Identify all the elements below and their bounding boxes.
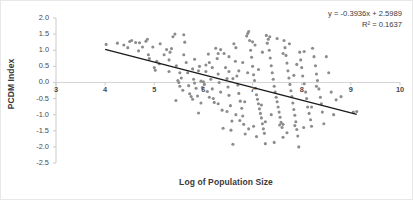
data-point (207, 53, 210, 56)
data-point-group (105, 30, 359, 148)
data-point (241, 61, 244, 64)
data-point (294, 120, 297, 123)
data-point (159, 42, 162, 45)
data-point (192, 78, 195, 81)
data-point (227, 94, 230, 97)
data-point (239, 100, 242, 103)
data-point (258, 107, 261, 110)
data-point (209, 78, 212, 81)
data-point (287, 76, 290, 79)
data-point (272, 78, 275, 81)
data-point (216, 57, 219, 60)
data-point (231, 77, 234, 80)
data-point (292, 108, 295, 111)
data-point (259, 112, 262, 115)
data-point (270, 113, 273, 116)
data-point (208, 96, 211, 99)
data-point (175, 64, 178, 67)
data-point (148, 57, 151, 60)
data-point (219, 48, 222, 51)
data-point (180, 76, 183, 79)
data-point (204, 63, 207, 66)
data-point (310, 105, 313, 108)
data-point (261, 122, 264, 125)
data-point (167, 70, 170, 73)
data-point (178, 71, 181, 74)
data-point (308, 112, 311, 115)
y-tick-label: -2.0 (23, 142, 49, 151)
data-point (253, 44, 256, 47)
data-point (199, 102, 202, 105)
data-point (232, 42, 235, 45)
data-point (292, 74, 295, 77)
data-point (273, 85, 276, 88)
data-point (196, 94, 199, 97)
data-point (171, 35, 174, 38)
data-point (312, 55, 315, 58)
data-point (288, 42, 291, 45)
data-point (231, 143, 234, 146)
data-point (222, 127, 225, 130)
data-point (193, 82, 196, 85)
data-point (260, 116, 263, 119)
data-point (281, 126, 284, 129)
data-point (257, 102, 260, 105)
data-point (277, 105, 280, 108)
data-point (279, 116, 282, 119)
data-point (122, 44, 125, 47)
x-axis-title: Log of Population Size (56, 177, 396, 187)
data-point (317, 87, 320, 90)
data-point (211, 66, 214, 69)
data-point (301, 74, 304, 77)
data-point (181, 89, 184, 92)
regression-equation: y = -0.3936x + 2.5989 (328, 8, 402, 19)
data-point (177, 81, 180, 84)
data-point (229, 129, 232, 132)
data-point (237, 92, 240, 95)
data-point (252, 125, 255, 128)
x-tick-label: 7 (243, 85, 263, 94)
data-point (256, 98, 259, 101)
data-point (263, 132, 266, 135)
data-point (310, 125, 313, 128)
data-point (185, 61, 188, 64)
data-point (225, 77, 228, 80)
data-point (250, 56, 253, 59)
data-point (249, 49, 252, 52)
data-point (305, 97, 308, 100)
data-point (311, 47, 314, 50)
data-point (134, 41, 137, 44)
data-point (221, 109, 224, 112)
data-point (264, 120, 267, 123)
data-point (291, 102, 294, 105)
y-tick-label: -2.5 (23, 158, 49, 167)
data-point (188, 92, 191, 95)
data-point (227, 70, 230, 73)
data-point (276, 100, 279, 103)
x-tick-label: 3 (46, 85, 66, 94)
data-point (226, 85, 229, 88)
data-point (163, 53, 166, 56)
data-point (309, 118, 312, 121)
data-point (319, 96, 322, 99)
data-point (204, 70, 207, 73)
data-point (246, 71, 249, 74)
data-point (286, 69, 289, 72)
data-point (285, 62, 288, 65)
data-point (187, 84, 190, 87)
data-point (227, 55, 230, 58)
data-point (251, 65, 254, 68)
data-point (225, 110, 228, 113)
data-point (193, 58, 196, 61)
data-point (306, 105, 309, 108)
data-point (315, 73, 318, 76)
r-squared-value: R² = 0.1637 (328, 19, 402, 30)
data-point (234, 46, 237, 49)
data-point (178, 85, 181, 88)
regression-annotation: y = -0.3936x + 2.5989 R² = 0.1637 (328, 8, 402, 30)
data-point (355, 110, 358, 113)
data-point (197, 69, 200, 72)
data-point (281, 136, 284, 139)
y-axis-title: PCDM Index (6, 48, 16, 120)
data-point (229, 104, 232, 107)
